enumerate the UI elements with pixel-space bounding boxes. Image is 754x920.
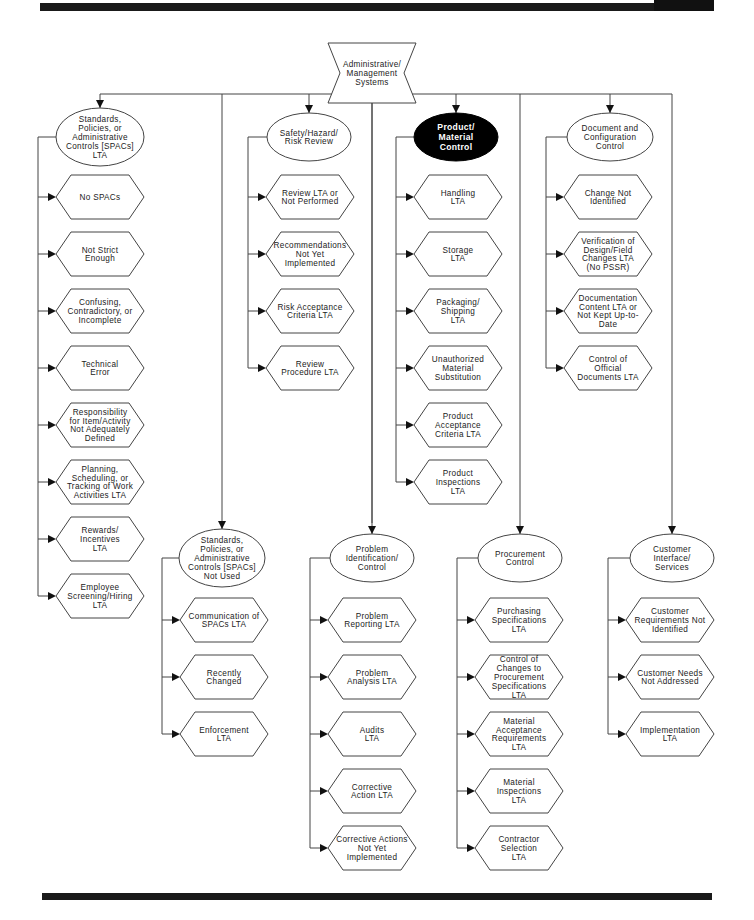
node-label-line: for Item/Activity [69,417,131,426]
node-label-line: Control [596,142,625,151]
arrow-right-icon [320,616,328,624]
node-label-line: Procedure LTA [281,368,339,377]
cause-node[interactable]: RecentlyChanged [180,655,268,699]
cause-node[interactable]: Confusing,Contradictory, orIncomplete [56,289,144,333]
arrow-right-icon [172,730,180,738]
arrow-right-icon [48,307,56,315]
node-label-line: Procurement [495,550,546,559]
cause-node[interactable]: ProblemAnalysis LTA [328,655,416,699]
node-label-line: Management [347,69,398,78]
arrow-right-icon [320,787,328,795]
arrow-right-icon [48,478,56,486]
category-node-customer-interface-services[interactable]: CustomerInterface/Services [630,534,714,582]
node-label-line: Standards, [79,115,122,124]
cause-node[interactable]: Review LTA orNot Performed [266,175,354,219]
cause-node[interactable]: Responsibilityfor Item/ActivityNot Adequ… [56,403,144,447]
node-label-line: Change Not [585,189,632,198]
cause-node[interactable]: Customer NeedsNot Addressed [626,655,714,699]
node-label-line: Not Yet [358,844,387,853]
cause-node[interactable]: StorageLTA [414,232,502,276]
node-label-line: Risk Acceptance [277,303,342,312]
node-label-line: Review [296,360,325,369]
arrow-right-icon [556,193,564,201]
node-label-line: Activities LTA [74,491,127,500]
node-label-line: Product/ [437,122,475,132]
cause-node[interactable]: Verification ofDesign/FieldChanges LTA(N… [564,232,652,276]
cause-node[interactable]: Packaging/ShippingLTA [414,289,502,333]
cause-node[interactable]: CorrectiveAction LTA [328,769,416,813]
cause-node[interactable]: CustomerRequirements NotIdentified [626,598,714,642]
cause-node[interactable]: Not StrictEnough [56,232,144,276]
cause-node[interactable]: ProblemReporting LTA [328,598,416,642]
cause-node[interactable]: TechnicalError [56,346,144,390]
arrow-right-icon [172,673,180,681]
node-label-line: Implemented [285,259,336,268]
cause-node[interactable]: Corrective ActionsNot YetImplemented [328,826,416,870]
cause-node[interactable]: HandlingLTA [414,175,502,219]
cause-node[interactable]: Communication ofSPACs LTA [180,598,268,642]
node-label-line: Policies, or [78,124,122,133]
node-label-line: Not Strict [82,246,119,255]
cause-node[interactable]: DocumentationContent LTA orNot Kept Up-t… [564,289,652,333]
node-label-line: Documents LTA [577,373,639,382]
node-label-line: Enough [85,254,115,263]
cause-node[interactable]: Change NotIdentified [564,175,652,219]
node-label-line: Criteria LTA [287,311,333,320]
arrow-right-icon [406,250,414,258]
category-node-product-material-control[interactable]: Product/MaterialControl [414,113,498,161]
cause-node[interactable]: No SPACs [56,175,144,219]
cause-node[interactable]: UnauthorizedMaterialSubstitution [414,346,502,390]
cause-node[interactable]: Rewards/IncentivesLTA [56,517,144,561]
node-label-line: Changes LTA [582,254,634,263]
node-label-line: Audits [360,726,385,735]
node-label-line: Design/Field [583,246,632,255]
node-label-line: LTA [451,254,466,263]
cause-node[interactable]: Planning,Scheduling, orTracking of WorkA… [56,460,144,504]
root-node-administrative-management-systems[interactable]: Administrative/ManagementSystems [328,43,416,103]
node-label-line: Incomplete [78,316,121,325]
cause-node[interactable]: ReviewProcedure LTA [266,346,354,390]
arrow-right-icon [467,673,475,681]
arrow-right-icon [258,307,266,315]
category-node-document-configuration-control[interactable]: Document andConfigurationControl [567,113,653,161]
node-label-line: Not Used [204,572,241,581]
arrow-right-icon [406,478,414,486]
cause-node[interactable]: ImplementationLTA [626,712,714,756]
cause-node[interactable]: Control ofChanges toProcurementSpecifica… [475,655,563,700]
category-node-spacs-not-used[interactable]: Standards,Policies, orAdministrativeCont… [179,529,265,587]
node-label-line: Not Yet [296,250,325,259]
node-label-line: Packaging/ [436,298,480,307]
cause-node[interactable]: EnforcementLTA [180,712,268,756]
cause-node[interactable]: Control ofOfficialDocuments LTA [564,346,652,390]
arrow-right-icon [618,673,626,681]
cause-node[interactable]: RecommendationsNot YetImplemented [266,232,354,276]
node-label-line: Rewards/ [82,526,119,535]
arrow-down-icon [305,105,313,113]
category-node-procurement-control[interactable]: ProcurementControl [478,534,562,582]
cause-node[interactable]: ProductInspectionsLTA [414,460,502,504]
node-label-line: Substitution [435,373,482,382]
node-label-line: LTA [512,796,527,805]
cause-node[interactable]: ContractorSelectionLTA [475,826,563,870]
node-label-line: Purchasing [497,607,541,616]
cause-node[interactable]: MaterialInspectionsLTA [475,769,563,813]
category-node-spacs-lta[interactable]: Standards,Policies, orAdministrativeCont… [56,108,144,166]
node-label-line: Action LTA [351,791,393,800]
cause-node[interactable]: AuditsLTA [328,712,416,756]
node-label-line: Review LTA or [282,189,338,198]
cause-node[interactable]: EmployeeScreening/HiringLTA [56,574,144,618]
node-label-line: Requirements Not [635,616,706,625]
node-label-line: Tracking of Work [67,482,134,491]
category-node-safety-hazard-risk-review[interactable]: Safety/Hazard/Risk Review [267,113,351,161]
fault-tree-diagram: Administrative/ManagementSystems Standar… [0,0,754,920]
node-label-line: Not Kept Up-to- [577,311,638,320]
cause-node[interactable]: Risk AcceptanceCriteria LTA [266,289,354,333]
node-label-line: Shipping [441,307,475,316]
cause-node[interactable]: ProductAcceptanceCriteria LTA [414,403,502,447]
cause-node[interactable]: PurchasingSpecificationsLTA [475,598,563,642]
node-label-line: Recently [207,669,242,678]
node-label-line: Planning, [82,465,119,474]
category-node-problem-identification-control[interactable]: ProblemIdentification/Control [330,534,414,582]
arrow-down-icon [606,105,614,113]
cause-node[interactable]: MaterialAcceptanceRequirementsLTA [475,712,563,756]
